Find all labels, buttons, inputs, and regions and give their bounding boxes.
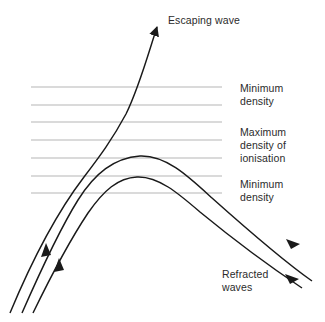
label-minimum-density-upper: Minimum density [240,82,283,108]
label-escaping-wave: Escaping wave [168,14,240,27]
escaping-wave-ray [10,27,157,313]
label-maximum-density-of-ionisation: Maximum density of ionisation [240,126,286,165]
arrow-down-ray-upper [285,274,299,284]
arrow-up-ray-lower [54,258,64,272]
ionosphere-refraction-diagram: Escaping wave Minimum density Maximum de… [0,0,325,322]
label-refracted-waves: Refracted waves [222,268,268,294]
label-minimum-density-lower: Minimum density [240,178,283,204]
arrow-down-ray-lower [286,239,300,249]
density-gridlines [31,87,222,193]
arrow-up-ray-upper [41,243,51,257]
